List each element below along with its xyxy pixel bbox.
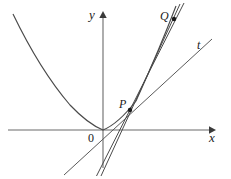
tangent-line-label: t xyxy=(197,39,200,51)
point-q-marker xyxy=(172,17,176,21)
tangent-line-t xyxy=(64,39,212,175)
secant-line-2 xyxy=(97,3,185,176)
point-q-label: Q xyxy=(160,10,169,22)
parabola-tangent-diagram: y x 0 P Q t xyxy=(0,0,231,179)
x-axis-label: x xyxy=(209,131,215,144)
y-axis-arrow-icon xyxy=(99,11,106,18)
y-axis-label: y xyxy=(89,8,95,21)
point-p-label: P xyxy=(119,98,126,110)
point-p-marker xyxy=(128,108,132,112)
diagram-canvas xyxy=(0,0,231,179)
origin-label: 0 xyxy=(88,132,94,144)
